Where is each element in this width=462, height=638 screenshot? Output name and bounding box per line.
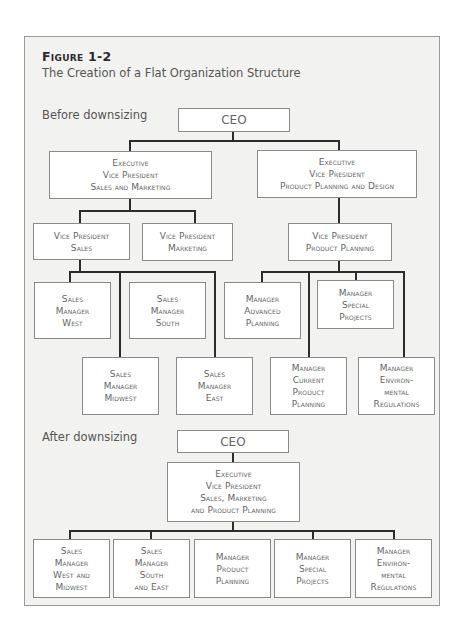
box-line: Manager	[246, 293, 280, 305]
box-line: mental	[384, 386, 409, 398]
box-line: Manager	[151, 305, 185, 317]
before-section-label: Before downsizing	[42, 108, 147, 122]
box-line: Manager	[216, 551, 250, 563]
box-line: Current	[293, 374, 325, 386]
box-line: Advanced	[244, 305, 280, 317]
org-box-sales-manager-south: Sales Manager South	[129, 282, 206, 339]
org-box-manager-environmental-regulations: Manager Environ- mental Regulations	[358, 357, 435, 415]
box-line: Midwest	[104, 392, 136, 404]
box-line: Manager	[104, 380, 138, 392]
box-line: South	[140, 569, 164, 581]
box-line: Sales and Marketing	[91, 181, 171, 193]
box-line: Manager	[339, 287, 373, 299]
connector	[69, 271, 216, 273]
box-line: Manager	[377, 545, 411, 557]
box-line: Vice President	[54, 230, 110, 242]
box-line: South	[156, 317, 180, 329]
box-line: Projects	[296, 575, 328, 587]
box-line: Executive	[112, 157, 148, 169]
box-line: Product	[293, 386, 325, 398]
org-box-ceo: CEO	[178, 108, 290, 132]
box-line: Manager	[296, 551, 330, 563]
box-line: Sales	[141, 545, 162, 557]
box-line: Planning	[292, 398, 326, 410]
org-box-vp-sales: Vice President Sales	[33, 223, 130, 260]
org-box-ceo-after: CEO	[177, 430, 289, 453]
org-box-sales-manager-east: Sales Manager East	[176, 357, 253, 415]
connector	[129, 140, 131, 151]
connector	[308, 271, 310, 357]
org-box-sales-manager-west-midwest: Sales Manager West and Midwest	[33, 539, 110, 598]
box-line: Marketing	[168, 242, 207, 254]
box-line: Manager	[380, 362, 414, 374]
connector	[119, 271, 121, 357]
org-box-sales-manager-west: Sales Manager West	[34, 282, 111, 339]
org-box-evp-sales-marketing: Executive Vice President Sales and Marke…	[49, 151, 212, 199]
box-line: Manager	[198, 380, 232, 392]
box-line: Sales, Marketing	[200, 492, 266, 504]
org-box-manager-environmental-regulations-after: Manager Environ- mental Regulations	[355, 539, 432, 598]
connector	[79, 210, 81, 223]
connector	[338, 140, 340, 150]
box-line: Planning	[216, 575, 250, 587]
connector	[338, 197, 340, 223]
org-box-manager-special-projects: Manager Special Projects	[317, 280, 394, 329]
org-box-manager-advanced-planning: Manager Advanced Planning	[224, 282, 301, 339]
box-line: Environ-	[380, 374, 413, 386]
org-box-vp-marketing: Vice President Marketing	[142, 223, 233, 261]
org-box-sales-manager-south-east: Sales Manager South and East	[113, 539, 190, 598]
box-line: Midwest	[55, 581, 87, 593]
box-line: and East	[134, 581, 168, 593]
box-line: West	[62, 317, 83, 329]
box-line: Regulations	[371, 581, 417, 593]
box-line: Executive	[215, 468, 251, 480]
box-line: West and	[53, 569, 90, 581]
box-line: Sales	[61, 545, 82, 557]
box-line: Product	[217, 563, 249, 575]
connector	[69, 530, 395, 532]
after-section-label: After downsizing	[42, 430, 137, 444]
box-line: Sales	[71, 242, 92, 254]
connector	[393, 530, 395, 539]
org-box-evp-product-planning-design: Executive Vice President Product Plannin…	[257, 150, 417, 198]
connector	[194, 210, 196, 223]
box-line: Manager	[56, 305, 90, 317]
box-line: Sales	[204, 368, 225, 380]
connector	[312, 530, 314, 539]
box-line: Projects	[339, 311, 371, 323]
box-line: Manager	[135, 557, 169, 569]
connector	[129, 140, 340, 142]
box-line: Product Planning	[306, 242, 375, 254]
connector	[79, 210, 196, 212]
connector	[232, 452, 234, 462]
connector	[214, 271, 216, 357]
connector	[150, 530, 152, 539]
org-box-manager-product-planning: Manager Product Planning	[194, 539, 271, 598]
org-box-vp-product-planning: Vice President Product Planning	[288, 223, 392, 261]
box-line: Executive	[319, 156, 355, 168]
box-line: Environ-	[377, 557, 410, 569]
connector	[69, 271, 71, 282]
box-line: Vice President	[309, 168, 365, 180]
org-box-sales-manager-midwest: Sales Manager Midwest	[82, 357, 159, 415]
box-line: Vice President	[312, 230, 368, 242]
box-line: Vice President	[206, 480, 262, 492]
box-line: CEO	[220, 436, 246, 448]
box-line: Regulations	[374, 398, 420, 410]
connector	[261, 271, 405, 273]
org-box-evp-combined: Executive Vice President Sales, Marketin…	[167, 462, 300, 522]
box-line: and Product Planning	[191, 504, 276, 516]
box-line: Special	[299, 563, 326, 575]
box-line: Vice President	[160, 230, 216, 242]
connector	[261, 271, 263, 282]
org-box-manager-special-projects-after: Manager Special Projects	[274, 539, 351, 598]
box-line: Sales	[62, 293, 83, 305]
org-box-manager-current-product-planning: Manager Current Product Planning	[270, 357, 347, 415]
box-line: Product Planning and Design	[280, 180, 394, 192]
figure-title: The Creation of a Flat Organization Stru…	[42, 66, 301, 80]
connector	[355, 271, 357, 280]
box-line: Manager	[55, 557, 89, 569]
box-line: mental	[381, 569, 406, 581]
connector	[403, 271, 405, 357]
box-line: Special	[342, 299, 369, 311]
